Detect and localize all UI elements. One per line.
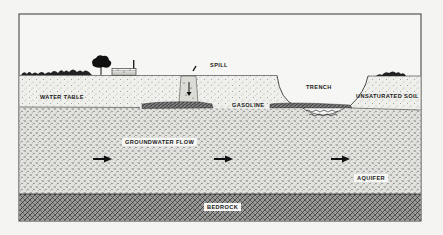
label-aquifer: AQUIFER — [354, 174, 388, 182]
label-groundwater-flow: GROUNDWATER FLOW — [122, 138, 197, 146]
groundwater-diagram: SPILL TRENCH UNSATURATED SOIL WATER TABL… — [0, 0, 443, 235]
label-unsaturated-soil: UNSATURATED SOIL — [356, 93, 419, 99]
label-gasoline: GASOLINE — [232, 102, 264, 108]
label-bedrock: BEDROCK — [204, 203, 241, 211]
label-trench: TRENCH — [306, 84, 332, 90]
label-water-table: WATER TABLE — [40, 94, 84, 100]
label-spill: SPILL — [210, 62, 228, 68]
diagram-canvas — [0, 0, 443, 235]
gasoline-lens-left — [142, 102, 213, 109]
chimney-icon — [133, 60, 134, 69]
